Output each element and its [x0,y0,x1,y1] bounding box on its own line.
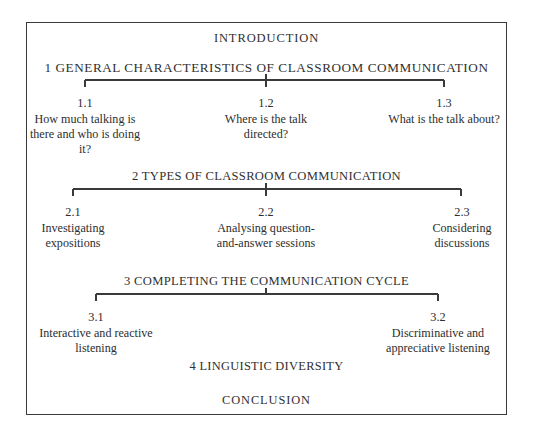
heading-conclusion: CONCLUSION [27,393,506,408]
node-label: Interactive and reactive listening [34,326,158,356]
node-label: How much talking is there and who is doi… [27,112,143,156]
node-number: 2.1 [21,205,125,220]
heading-section-4: 4 LINGUISTIC DIVERSITY [27,359,506,374]
heading-section-3: 3 COMPLETING THE COMMUNICATION CYCLE [27,274,506,289]
heading-section-2: 2 TYPES OF CLASSROOM COMMUNICATION [27,169,506,184]
diagram-frame: INTRODUCTION 1 GENERAL CHARACTERISTICS O… [26,22,507,415]
node-number: 2.2 [208,205,324,220]
node-1-3: 1.3 What is the talk about? [386,96,502,127]
heading-section-1: 1 GENERAL CHARACTERISTICS OF CLASSROOM C… [27,60,506,76]
node-1-1: 1.1 How much talking is there and who is… [27,96,143,156]
node-number: 3.1 [34,310,158,325]
node-label: What is the talk about? [386,112,502,127]
diagram-canvas: INTRODUCTION 1 GENERAL CHARACTERISTICS O… [27,23,506,414]
node-number: 3.2 [366,310,510,325]
node-label: Investigating expositions [21,221,125,251]
node-label: Considering discussions [410,221,514,251]
node-label: Where is the talk directed? [208,112,324,142]
node-number: 1.1 [27,96,143,111]
node-number: 2.3 [410,205,514,220]
heading-introduction: INTRODUCTION [27,31,506,46]
node-3-2: 3.2 Discriminative and appreciative list… [366,310,510,356]
node-2-3: 2.3 Considering discussions [410,205,514,251]
node-2-2: 2.2 Analysing question-and-answer sessio… [208,205,324,251]
node-3-1: 3.1 Interactive and reactive listening [34,310,158,356]
node-1-2: 1.2 Where is the talk directed? [208,96,324,142]
node-label: Analysing question-and-answer sessions [208,221,324,251]
node-number: 1.3 [386,96,502,111]
node-number: 1.2 [208,96,324,111]
node-2-1: 2.1 Investigating expositions [21,205,125,251]
node-label: Discriminative and appreciative listenin… [366,326,510,356]
